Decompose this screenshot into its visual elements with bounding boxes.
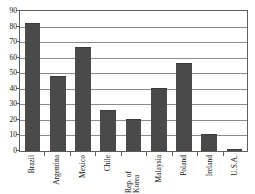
y-axis-tick-mark: [16, 119, 19, 120]
x-label-slot: Ireland: [197, 155, 222, 194]
x-axis-category-label: Chile: [104, 155, 112, 171]
bar-slot: [121, 11, 146, 151]
y-axis-tick-label: 80: [0, 23, 17, 31]
y-axis-tick-mark: [16, 150, 19, 151]
x-label-slot: Argentina: [44, 155, 69, 194]
bar: [100, 110, 116, 151]
x-axis-category-label: Mexico: [79, 155, 87, 178]
bar-slot: [96, 11, 121, 151]
bar: [25, 23, 41, 151]
bar: [75, 47, 91, 151]
bar: [176, 63, 192, 151]
y-axis-tick-label: 60: [0, 54, 17, 62]
y-axis-tick-label: 20: [0, 116, 17, 124]
y-axis-tick-mark: [16, 134, 19, 135]
bar-slot: [171, 11, 196, 151]
x-label-slot: U.S.A.: [223, 155, 248, 194]
y-axis-tick-mark: [16, 103, 19, 104]
x-label-slot: Rep. of Korea: [121, 155, 146, 194]
x-axis-category-label: Brazil: [28, 155, 36, 173]
bar-chart-figure: 0102030405060708090 BrazilArgentinaMexic…: [0, 0, 255, 194]
y-axis-tick-mark: [16, 57, 19, 58]
bar: [126, 119, 142, 151]
x-label-slot: Brazil: [19, 155, 44, 194]
bar-slot: [197, 11, 222, 151]
bar: [227, 149, 243, 151]
x-label-slot: Chile: [95, 155, 120, 194]
y-axis-tick-mark: [16, 26, 19, 27]
x-axis-category-label: Malaysia: [155, 155, 163, 183]
y-axis-tick-mark: [16, 41, 19, 42]
bar: [151, 88, 167, 151]
x-axis-category-label: Rep. of Korea: [125, 155, 141, 193]
y-axis-tick-label: 50: [0, 69, 17, 77]
y-axis-tick-label: 30: [0, 100, 17, 108]
y-axis-tick-label: 40: [0, 85, 17, 93]
y-axis-tick-mark: [16, 72, 19, 73]
bar: [201, 134, 217, 151]
bar-series: [20, 11, 247, 151]
plot-area: [19, 10, 248, 152]
x-axis-labels: BrazilArgentinaMexicoChileRep. of KoreaM…: [19, 155, 248, 194]
y-axis-tick-label: 10: [0, 131, 17, 139]
x-label-slot: Poland: [172, 155, 197, 194]
y-axis-tick-mark: [16, 10, 19, 11]
y-axis-tick-mark: [16, 88, 19, 89]
y-axis-tick-label: 90: [0, 7, 17, 15]
x-axis-category-label: U.S.A.: [231, 155, 239, 176]
y-axis-tick-label: 0: [0, 147, 17, 155]
x-axis-category-label: Argentina: [53, 155, 61, 185]
x-label-slot: Mexico: [70, 155, 95, 194]
bar-slot: [70, 11, 95, 151]
x-label-slot: Malaysia: [146, 155, 171, 194]
x-axis-category-label: Ireland: [206, 155, 214, 176]
bar: [50, 76, 66, 151]
y-axis-tick-label: 70: [0, 38, 17, 46]
x-axis-category-label: Poland: [180, 155, 188, 176]
bar-slot: [146, 11, 171, 151]
bar-slot: [222, 11, 247, 151]
bar-slot: [45, 11, 70, 151]
bar-slot: [20, 11, 45, 151]
